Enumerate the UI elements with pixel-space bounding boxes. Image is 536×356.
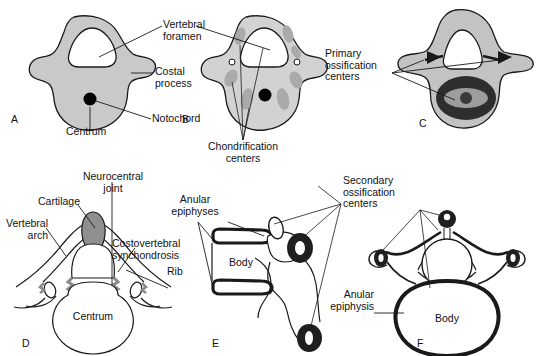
label-chondrification-centers: Chondrificationcenters — [193, 141, 293, 164]
label-anular-epiphyses: Anularepiphyses — [157, 194, 233, 217]
panel-letter-e: E — [212, 337, 219, 349]
panel-letter-b: B — [182, 113, 189, 125]
label-costovertebral-synchondrosis: Costovertebralsynchondrosis — [112, 238, 180, 261]
panel-letter-c: C — [419, 117, 427, 129]
vertebral-foramen-d — [72, 244, 115, 278]
label-centrum-a: Centrum — [66, 126, 106, 138]
secondary-center-spinous-inner-e — [305, 331, 313, 345]
label-secondary-ossification-centers: Secondaryossificationcenters — [343, 175, 395, 210]
panel-letter-d: D — [22, 337, 30, 349]
label-centrum-d: Centrum — [62, 311, 124, 323]
vertebra-development-figure: Vertebralforamen Costalprocess Notochord… — [0, 0, 536, 356]
notochord-dot-a — [84, 93, 97, 106]
centrum-ossification-core-c — [460, 92, 472, 104]
chondrification-ring-left — [229, 59, 235, 65]
label-primary-ossification-centers: Primaryossificationcenters — [325, 48, 377, 83]
chondrification-ring-right — [294, 59, 300, 65]
secondary-center-spinous-inner-f — [444, 214, 450, 220]
label-anular-epiphysis: Anularepiphysis — [296, 289, 374, 312]
label-body-f: Body — [420, 313, 474, 325]
notochord-dot-b — [259, 89, 272, 102]
panel-letter-a: A — [11, 113, 18, 125]
anular-epiphysis-inferior-e — [213, 280, 272, 294]
panel-letter-f: F — [417, 337, 423, 349]
secondary-center-ring-inner-e — [295, 241, 305, 255]
label-vertebral-foramen: Vertebralforamen — [163, 19, 205, 42]
label-costal-process: Costalprocess — [155, 66, 192, 89]
label-body-e: Body — [214, 257, 268, 269]
label-neurocentral-joint: Neurocentraljoint — [74, 171, 152, 194]
label-rib: Rib — [167, 266, 183, 278]
label-cartilage: Cartilage — [38, 196, 80, 208]
label-vertebral-arch: Vertebralarch — [0, 218, 48, 241]
label-notochord: Notochord — [152, 113, 200, 125]
